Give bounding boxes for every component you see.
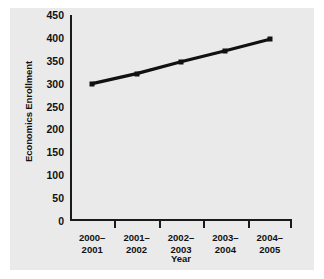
x-tick-mark bbox=[114, 221, 116, 228]
y-tick-label: 200 bbox=[46, 123, 64, 135]
x-axis-title: Year bbox=[70, 253, 292, 264]
data-point-marker bbox=[223, 48, 228, 53]
data-point-marker bbox=[179, 59, 184, 64]
data-point-marker bbox=[267, 37, 272, 42]
y-tick-label: 0 bbox=[58, 215, 64, 227]
x-tick-mark bbox=[203, 221, 205, 228]
x-tick-mark bbox=[159, 221, 161, 228]
y-tick-label: 450 bbox=[46, 9, 64, 21]
x-tick-label-line: 2003– bbox=[212, 232, 238, 244]
x-tick-label-line: 2004– bbox=[257, 232, 283, 244]
y-tick-label: 50 bbox=[52, 192, 64, 204]
data-point-marker bbox=[134, 71, 139, 76]
y-axis-title: Economics Enrollment bbox=[23, 32, 34, 192]
y-tick-label: 100 bbox=[46, 169, 64, 181]
enrollment-line-series bbox=[70, 15, 292, 221]
chart-figure: Economics Enrollment 0501001502002503003… bbox=[10, 8, 314, 270]
y-tick-label: 350 bbox=[46, 55, 64, 67]
y-tick-label: 400 bbox=[46, 32, 64, 44]
y-tick-label: 300 bbox=[46, 78, 64, 90]
x-tick-mark bbox=[290, 221, 292, 228]
y-tick-label: 250 bbox=[46, 101, 64, 113]
y-tick-label: 150 bbox=[46, 146, 64, 158]
x-tick-label-line: 2002– bbox=[168, 232, 194, 244]
x-tick-mark bbox=[248, 221, 250, 228]
data-point-marker bbox=[90, 81, 95, 86]
x-tick-label-line: 2000– bbox=[79, 232, 105, 244]
plot-area: 050100150200250300350400450 2000–2001200… bbox=[70, 15, 292, 221]
x-tick-label-line: 2001– bbox=[123, 232, 149, 244]
